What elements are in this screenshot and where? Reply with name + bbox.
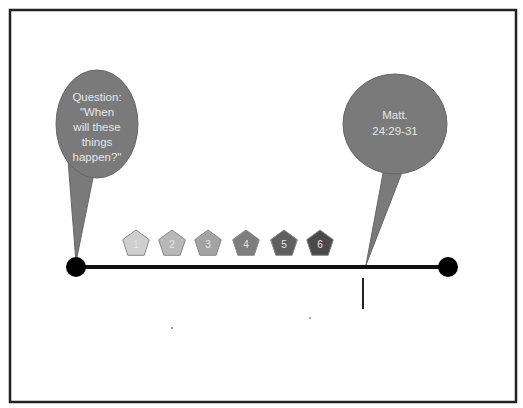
marker-label: 6 [317, 239, 323, 250]
marker-label: 5 [281, 239, 287, 250]
timeline-diagram: Question:"Whenwill thesethingshappen?" M… [0, 0, 523, 408]
timeline-end-point [438, 257, 458, 277]
marker-label: 1 [133, 239, 139, 250]
marker-label: 2 [169, 239, 175, 250]
marker-label: 3 [205, 239, 211, 250]
svg-text:Question:"Whenwill thesethings: Question:"Whenwill thesethingshappen?" [72, 91, 121, 163]
timeline-start-point [66, 257, 86, 277]
marker-label: 4 [243, 239, 249, 250]
